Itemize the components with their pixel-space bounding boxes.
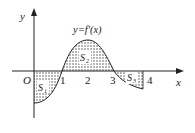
svg-text:2: 2 (86, 58, 89, 64)
region-label-s1: S 1 (37, 80, 49, 94)
derivative-graph: y x O y=f′(x) 1 2 3 4 S 1 S 2 S 3 (0, 0, 195, 133)
x-axis-arrow-icon (176, 68, 184, 74)
svg-text:S: S (127, 72, 132, 83)
y-axis-arrow-icon (31, 8, 37, 16)
tick-1: 1 (60, 74, 66, 86)
curve-label: y=f′(x) (72, 24, 102, 36)
svg-text:3: 3 (132, 78, 136, 84)
x-axis-label: x (175, 76, 181, 88)
svg-text:S: S (38, 82, 43, 93)
origin-label: O (23, 74, 31, 86)
svg-text:1: 1 (44, 88, 47, 94)
tick-3: 3 (110, 74, 116, 86)
region-label-s2: S 2 (79, 51, 91, 64)
tick-4: 4 (147, 74, 153, 86)
tick-2: 2 (85, 74, 91, 86)
region-label-s3: S 3 (126, 72, 138, 84)
svg-text:S: S (80, 52, 85, 63)
y-axis-label: y (19, 10, 25, 22)
